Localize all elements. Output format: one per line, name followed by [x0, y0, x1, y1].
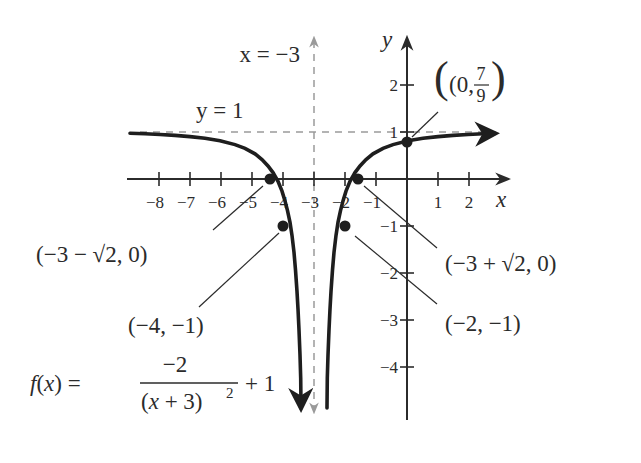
svg-text:9: 9: [477, 86, 486, 106]
svg-text:7: 7: [477, 64, 486, 84]
point-y-intercept: [402, 137, 413, 148]
svg-text:2: 2: [226, 385, 234, 401]
svg-text:+ 1: + 1: [245, 371, 275, 396]
svg-text:−4: −4: [380, 358, 399, 377]
vertical-asymptote-label: x = −3: [240, 42, 300, 67]
svg-text:−3: −3: [301, 193, 319, 212]
svg-text:−1: −1: [380, 217, 398, 236]
svg-text:): ): [491, 53, 506, 102]
svg-text:1: 1: [434, 193, 443, 212]
svg-text:−8: −8: [146, 193, 164, 212]
y-axis-label: y: [380, 27, 393, 52]
svg-text:−1: −1: [363, 193, 381, 212]
y-tick-labels: 2 1 −1 −2 −3 −4: [380, 76, 399, 377]
svg-text:(0,: (0,: [449, 72, 474, 97]
x-axis-label: x: [495, 187, 507, 212]
label-neg4-neg1: (−4, −1): [128, 313, 204, 338]
svg-text:−3: −3: [380, 311, 398, 330]
svg-text:1: 1: [390, 123, 399, 142]
svg-text:−5: −5: [239, 193, 257, 212]
label-left-x-intercept: (−3 − √2, 0): [36, 242, 147, 267]
svg-text:−2: −2: [163, 352, 187, 377]
point-neg4-neg1: [278, 221, 289, 232]
svg-text:(: (: [434, 53, 449, 102]
svg-text:2: 2: [390, 76, 399, 95]
label-right-x-intercept: (−3 + √2, 0): [445, 251, 556, 276]
label-neg2-neg1: (−2, −1): [445, 311, 521, 336]
label-y-intercept: ( (0, 7 9 ): [434, 53, 506, 106]
left-branch: [130, 133, 301, 408]
horizontal-asymptote-label: y = 1: [196, 98, 243, 123]
x-tick-labels: −8 −7 −6 −5 −4 −3 −2 −1 1 2: [146, 193, 473, 212]
point-right-x-intercept: [353, 174, 364, 185]
svg-text:(x + 3): (x + 3): [141, 389, 203, 414]
svg-text:2: 2: [465, 193, 474, 212]
svg-text:−6: −6: [208, 193, 226, 212]
svg-text:−7: −7: [177, 193, 196, 212]
svg-text:−2: −2: [380, 264, 398, 283]
point-neg2-neg1: [340, 221, 351, 232]
rational-function-graph: −8 −7 −6 −5 −4 −3 −2 −1 1 2 2 1 −1 −2 −3…: [0, 0, 641, 463]
point-left-x-intercept: [265, 174, 276, 185]
function-equation: f(x) = −2 (x + 3) 2 + 1: [30, 352, 275, 414]
svg-text:f(x) =: f(x) =: [30, 371, 81, 396]
